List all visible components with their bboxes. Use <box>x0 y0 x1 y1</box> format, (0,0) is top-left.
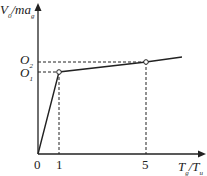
y-axis-arrow-icon <box>35 3 42 11</box>
x-tick-0: 0 <box>34 158 41 171</box>
diagram: V0/mag O2 O1 0 1 5 Tg/Tu <box>0 0 207 176</box>
y-axis-label: V0/mag <box>0 3 34 20</box>
x-tick-5: 5 <box>142 158 149 171</box>
x-tick-1: 1 <box>56 158 63 171</box>
guide-lines <box>38 62 146 154</box>
y-tick-o1: O1 <box>20 66 33 83</box>
plot-canvas <box>0 0 207 176</box>
marker-o1 <box>57 70 62 75</box>
marker-o2 <box>144 60 149 65</box>
x-axis-label: Tg/Tu <box>178 160 203 176</box>
x-axis-arrow-icon <box>198 151 206 158</box>
